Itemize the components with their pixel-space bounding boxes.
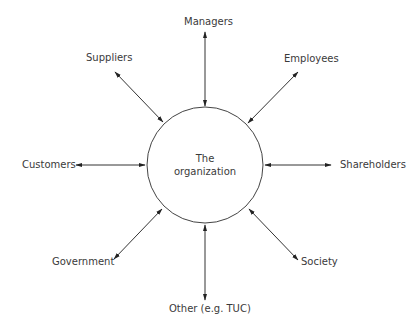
center-label-line1: The	[145, 152, 265, 165]
stakeholder-diagram: The organization Managers Employees Shar…	[0, 0, 414, 327]
arrow-suppliers	[115, 72, 163, 122]
label-suppliers: Suppliers	[86, 52, 132, 64]
center-label: The organization	[145, 152, 265, 178]
label-society: Society	[301, 256, 338, 268]
arrow-employees	[248, 72, 298, 123]
arrow-government	[114, 209, 162, 259]
label-customers: Customers	[22, 159, 76, 171]
label-employees: Employees	[284, 53, 339, 65]
arrow-society	[249, 209, 298, 260]
center-label-line2: organization	[145, 165, 265, 178]
label-other: Other (e.g. TUC)	[169, 303, 251, 315]
label-government: Government	[52, 256, 114, 268]
label-managers: Managers	[184, 16, 233, 28]
label-shareholders: Shareholders	[340, 159, 406, 171]
